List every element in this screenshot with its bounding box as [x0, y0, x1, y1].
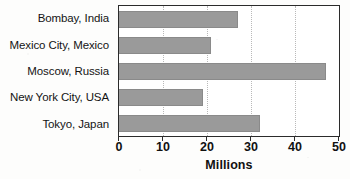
bar-row	[119, 84, 339, 110]
bar-bombay	[119, 11, 238, 28]
bar-row	[119, 58, 339, 84]
tick-label-20: 20	[200, 140, 214, 154]
category-axis-labels: Bombay, India Mexico City, Mexico Moscow…	[0, 5, 114, 137]
category-label-new-york-city: New York City, USA	[0, 84, 114, 110]
bar-row	[119, 32, 339, 58]
bar-row	[119, 110, 339, 136]
category-label-bombay: Bombay, India	[0, 5, 114, 31]
tick-label-30: 30	[244, 140, 258, 154]
x-axis-title: Millions	[118, 158, 340, 172]
bar-new-york-city	[119, 89, 203, 106]
tick-label-40: 40	[288, 140, 302, 154]
category-label-tokyo: Tokyo, Japan	[0, 111, 114, 137]
tick-label-10: 10	[156, 140, 170, 154]
x-axis-tick-labels: 0 10 20 30 40 50	[118, 140, 340, 156]
bar-chart-figure: Bombay, India Mexico City, Mexico Moscow…	[0, 0, 350, 179]
tick-label-0: 0	[116, 140, 123, 154]
bar-tokyo	[119, 115, 260, 132]
bars-layer	[119, 6, 339, 136]
bar-moscow	[119, 63, 326, 80]
bar-row	[119, 6, 339, 32]
tick-label-50: 50	[332, 140, 346, 154]
category-label-mexico-city: Mexico City, Mexico	[0, 31, 114, 57]
bar-mexico-city	[119, 37, 211, 54]
category-label-moscow: Moscow, Russia	[0, 58, 114, 84]
plot-area	[118, 5, 340, 137]
